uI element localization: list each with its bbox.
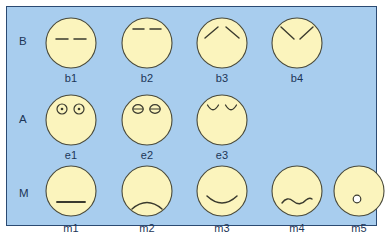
row-label-brows: B: [19, 35, 27, 47]
face-outline: [197, 18, 247, 68]
face-feature-matrix-panel: B b1 b2 b3: [6, 6, 377, 226]
face-cell-m1: m1: [41, 165, 101, 234]
face-m1: [41, 165, 101, 221]
face-outline: [46, 95, 96, 145]
face-label-m1: m1: [41, 222, 101, 234]
mouth-icon: [353, 195, 361, 203]
face-cell-m3: m3: [192, 165, 252, 234]
face-label-e3: e3: [192, 149, 252, 161]
face-label-b2: b2: [117, 72, 177, 84]
face-outline: [272, 166, 322, 216]
face-cell-b2: b2: [117, 15, 177, 84]
face-label-m3: m3: [192, 222, 252, 234]
face-label-m4: m4: [267, 222, 327, 234]
row-label-mouths: M: [19, 187, 29, 199]
face-cell-b1: b1: [41, 15, 101, 84]
face-cell-e3: e3: [192, 92, 252, 161]
face-e1: [41, 92, 101, 148]
face-m2: [117, 165, 177, 221]
face-label-b3: b3: [192, 72, 252, 84]
face-label-b1: b1: [41, 72, 101, 84]
face-cell-b4: b4: [267, 15, 327, 84]
face-label-m2: m2: [117, 222, 177, 234]
face-outline: [122, 95, 172, 145]
row-label-eyes: A: [19, 113, 27, 125]
face-b4: [267, 15, 327, 71]
face-outline: [197, 166, 247, 216]
face-cell-e1: e1: [41, 92, 101, 161]
face-cell-b3: b3: [192, 15, 252, 84]
face-label-b4: b4: [267, 72, 327, 84]
face-m3: [192, 165, 252, 221]
face-outline: [197, 95, 247, 145]
face-e2: [117, 92, 177, 148]
pupil-right-icon: [78, 108, 81, 111]
face-outline: [46, 18, 96, 68]
face-outline: [122, 18, 172, 68]
face-e3: [192, 92, 252, 148]
face-b1: [41, 15, 101, 71]
face-outline: [122, 166, 172, 216]
face-outline: [334, 166, 384, 216]
face-b2: [117, 15, 177, 71]
face-cell-m4: m4: [267, 165, 327, 234]
pupil-left-icon: [61, 108, 64, 111]
face-outline: [46, 166, 96, 216]
face-cell-e2: e2: [117, 92, 177, 161]
face-cell-m5: m5: [329, 165, 389, 234]
face-label-e1: e1: [41, 149, 101, 161]
face-cell-m2: m2: [117, 165, 177, 234]
face-label-e2: e2: [117, 149, 177, 161]
face-m4: [267, 165, 327, 221]
face-m5: [329, 165, 389, 221]
face-outline: [272, 18, 322, 68]
face-label-m5: m5: [329, 222, 389, 234]
face-b3: [192, 15, 252, 71]
